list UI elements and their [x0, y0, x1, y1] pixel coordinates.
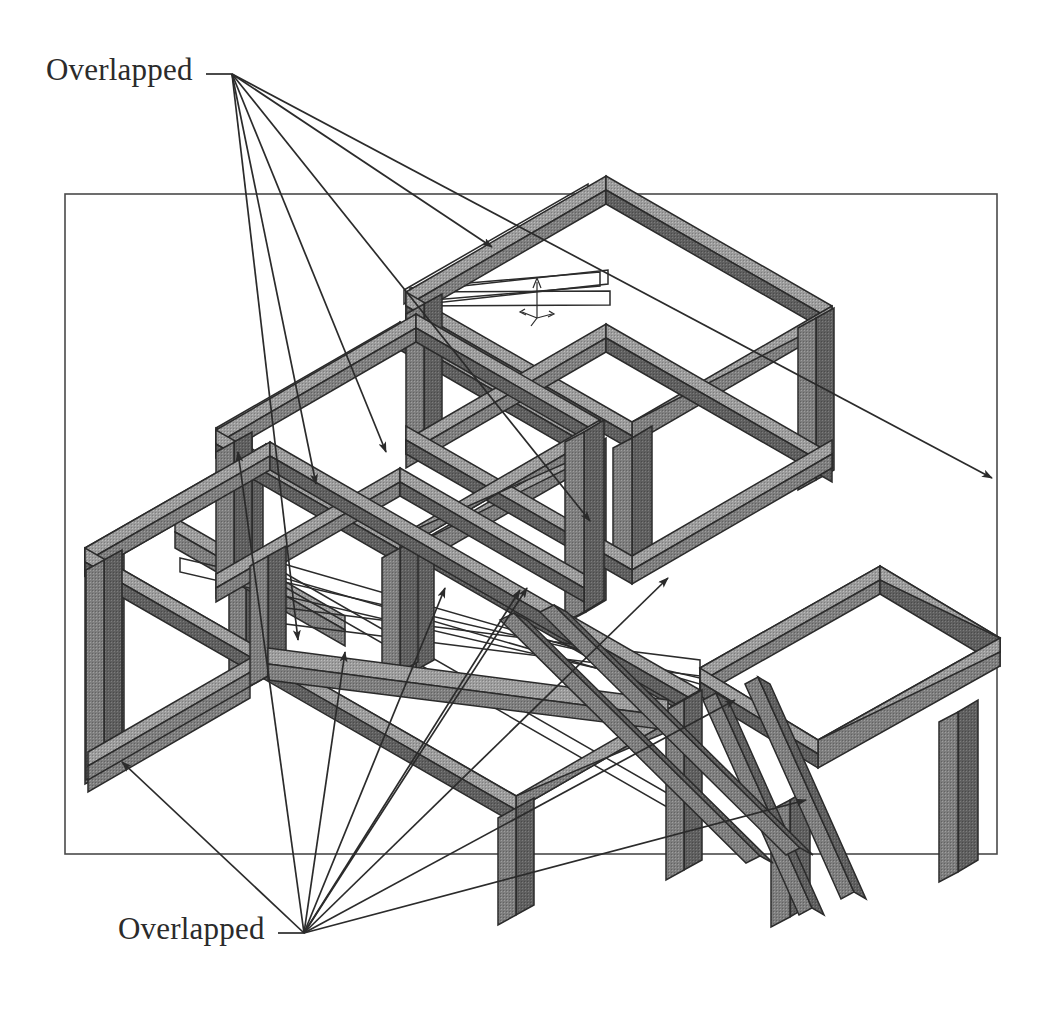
beam-top-box-front-rail [632, 440, 832, 584]
leader-bottom-1 [122, 762, 304, 933]
leader-bottom-9 [304, 800, 806, 933]
drawing-canvas: Overlapped Overlapped [0, 0, 1046, 1014]
coordinate-triad [520, 278, 554, 326]
stepped-frame-weldment [85, 176, 1000, 927]
callout-label-bottom: Overlapped [118, 911, 265, 947]
beam-main-front-leg [498, 798, 534, 925]
beam-right-lower-far-leg [939, 700, 978, 882]
isometric-drawing [0, 0, 1046, 1014]
callout-label-top: Overlapped [46, 52, 193, 88]
leader-top-4 [232, 74, 492, 247]
beam-midstep-front-leg [382, 538, 418, 682]
